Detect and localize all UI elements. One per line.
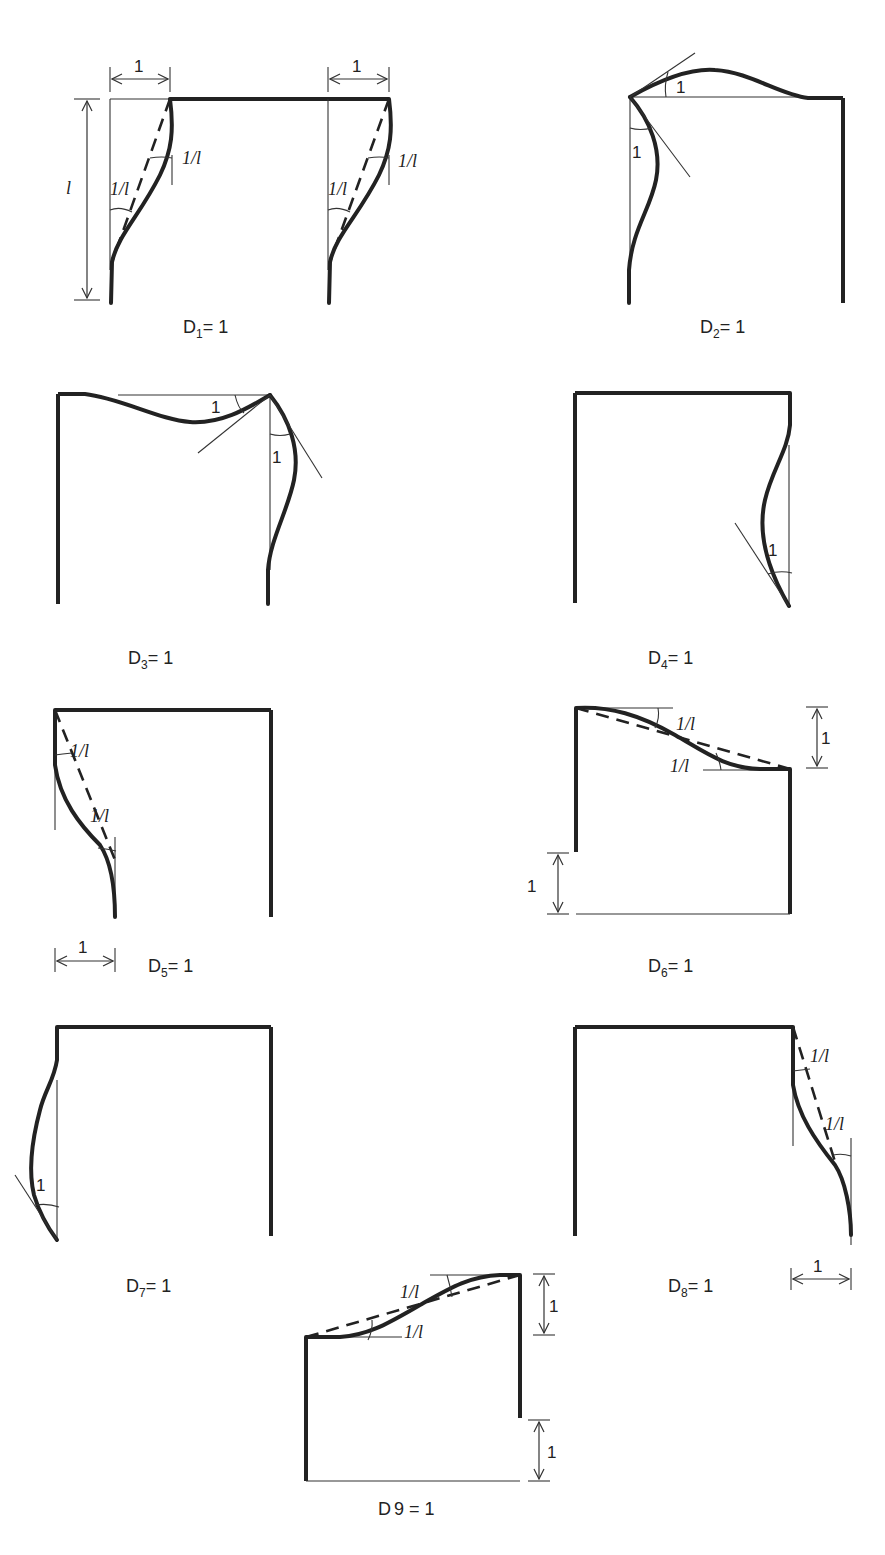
rotation-label: 1/l [400, 1282, 419, 1302]
rotation-label: 1/l [182, 148, 201, 168]
rotation-label: 1/l [404, 1322, 423, 1342]
deformed-column-right [268, 395, 296, 604]
deformed-column-right [329, 99, 391, 303]
rotation-label: 1/l [825, 1114, 844, 1134]
rotation-label: 1 [272, 448, 281, 467]
caption-d9: D9 = 1 [378, 1499, 435, 1519]
dimension-label: 1 [813, 1257, 822, 1276]
rotation-label: 1 [768, 541, 777, 560]
dimension-label: 1 [78, 938, 87, 957]
rotation-label: 1/l [110, 179, 129, 199]
angle-arc [630, 128, 652, 130]
panel-d4: 1 D4= 1 [575, 393, 792, 672]
panel-d8: 1/l 1/l 1 D8= 1 [575, 1027, 851, 1300]
panel-d1: 1 1 l 1/l 1/l 1/l 1/l D1= 1 [66, 57, 417, 341]
rotation-label: 1/l [70, 741, 89, 761]
rotation-label: 1/l [328, 179, 347, 199]
deformed-column-left [31, 1027, 57, 1240]
dimension-label: 1 [547, 1443, 556, 1462]
caption-d7: D7= 1 [126, 1276, 171, 1300]
dimension-label: l [66, 178, 71, 198]
panel-d2: 1 1 D2= 1 [629, 53, 843, 341]
angle-arc [368, 157, 389, 158]
rotation-label: 1/l [676, 714, 695, 734]
caption-d1: D1= 1 [183, 317, 228, 341]
caption-d5: D5= 1 [148, 956, 193, 980]
dimension-label: 1 [134, 57, 143, 76]
rotation-label: 1 [36, 1176, 45, 1195]
caption-d2: D2= 1 [700, 317, 745, 341]
panel-d6: 1/l 1/l 1 1 D6= 1 [527, 707, 830, 980]
rotation-label: 1 [211, 398, 220, 417]
panel-d3: 1 1 D3= 1 [58, 394, 322, 672]
rotation-label: 1 [676, 78, 685, 97]
deformed-column-right [762, 393, 790, 606]
angle-arc [328, 208, 350, 212]
angle-arc [833, 1154, 851, 1156]
caption-d6: D6= 1 [648, 956, 693, 980]
rotation-label: 1/l [810, 1046, 829, 1066]
angle-arc [665, 72, 668, 97]
deformed-column-left [111, 99, 172, 303]
angle-arc [270, 434, 290, 436]
dimension-label: 1 [352, 57, 361, 76]
tangent-line [630, 97, 690, 177]
tangent-line [198, 395, 270, 453]
mode-shapes-diagram: 1 1 l 1/l 1/l 1/l 1/l D1= 1 1 1 D2= 1 [0, 0, 885, 1555]
chord-line [55, 710, 115, 860]
rotation-label: 1/l [670, 756, 689, 776]
rotation-label: 1/l [90, 806, 109, 826]
panel-d9: 1/l 1/l 1 1 D9 = 1 [306, 1274, 558, 1519]
dimension-label: 1 [821, 729, 830, 748]
deformed-beam [630, 70, 808, 98]
rotation-label: 1 [632, 143, 641, 162]
dimension-label: 1 [527, 877, 536, 896]
rotation-label: 1/l [398, 151, 417, 171]
panel-d5: 1/l 1/l 1 D5= 1 [55, 710, 271, 980]
caption-d3: D3= 1 [128, 648, 173, 672]
angle-arc [110, 208, 132, 212]
panel-d7: 1 D7= 1 [15, 1027, 271, 1300]
caption-d4: D4= 1 [648, 648, 693, 672]
dimension-label: 1 [549, 1297, 558, 1316]
angle-arc [150, 157, 172, 158]
caption-d8: D8= 1 [668, 1276, 713, 1300]
